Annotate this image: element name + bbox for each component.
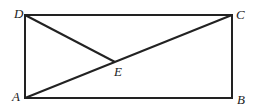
label-d: D: [13, 6, 24, 21]
label-c: C: [236, 7, 245, 22]
geometry-diagram: D C B A E: [0, 0, 261, 110]
label-b: B: [237, 92, 245, 107]
segment-de: [25, 15, 115, 62]
label-e: E: [113, 64, 122, 79]
label-a: A: [11, 89, 20, 104]
diagonal-ac: [25, 15, 232, 98]
